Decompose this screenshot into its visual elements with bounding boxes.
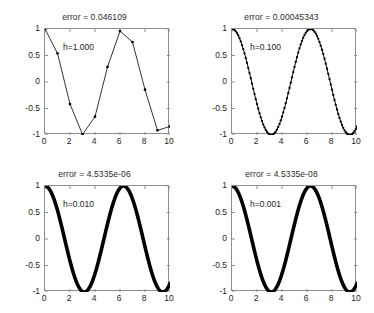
- step-size-annotation: h=0.010: [63, 199, 94, 209]
- y-tick-label: 0.5: [199, 50, 227, 59]
- y-tick-label: -1: [12, 287, 40, 296]
- y-tick-label: 0.5: [199, 207, 227, 216]
- x-tick-label: 2: [254, 137, 259, 146]
- x-tick-label: 4: [279, 137, 284, 146]
- x-tick-label: 8: [329, 137, 334, 146]
- x-tick-label: 0: [229, 294, 234, 303]
- y-tick-label: -0.5: [199, 103, 227, 112]
- y-tick-label: 1: [199, 181, 227, 190]
- y-tick-label: 0: [12, 77, 40, 86]
- y-tick-label: 1: [12, 181, 40, 190]
- x-tick-label: 0: [42, 137, 47, 146]
- x-tick-label: 0: [42, 294, 47, 303]
- y-tick-label: 0.5: [12, 207, 40, 216]
- subplot-top-right: error = 0.00045343 h=0.100 10.50-0.5-102…: [187, 0, 374, 157]
- figure-canvas: error = 0.046109 h=1.000 10.50-0.5-10246…: [0, 0, 374, 313]
- y-tick-label: -1: [199, 287, 227, 296]
- x-tick-label: 8: [142, 294, 147, 303]
- x-tick-label: 0: [229, 137, 234, 146]
- x-tick-label: 10: [164, 137, 173, 146]
- y-tick-label: 1: [199, 24, 227, 33]
- step-size-annotation: h=0.001: [250, 199, 281, 209]
- x-tick-label: 6: [304, 294, 309, 303]
- subplot-title: error = 4.5335e-06: [0, 169, 189, 179]
- x-tick-label: 4: [279, 294, 284, 303]
- x-tick-label: 4: [92, 137, 97, 146]
- x-tick-label: 2: [254, 294, 259, 303]
- y-tick-label: -1: [12, 130, 40, 139]
- x-tick-label: 4: [92, 294, 97, 303]
- step-size-annotation: h=0.100: [250, 42, 281, 52]
- y-tick-label: 0.5: [12, 50, 40, 59]
- y-tick-label: 0: [199, 77, 227, 86]
- x-tick-label: 10: [164, 294, 173, 303]
- y-tick-label: 0: [199, 234, 227, 243]
- x-tick-label: 6: [117, 294, 122, 303]
- x-tick-label: 6: [304, 137, 309, 146]
- subplot-bottom-right: error = 4.5335e-08 h=0.001 10.50-0.5-102…: [187, 157, 374, 313]
- subplot-title: error = 0.00045343: [187, 12, 374, 22]
- x-tick-label: 10: [351, 137, 360, 146]
- subplot-top-left: error = 0.046109 h=1.000 10.50-0.5-10246…: [0, 0, 187, 157]
- y-tick-label: -0.5: [12, 103, 40, 112]
- x-tick-label: 8: [142, 137, 147, 146]
- step-size-annotation: h=1.000: [63, 42, 94, 52]
- y-tick-label: 0: [12, 234, 40, 243]
- y-tick-label: 1: [12, 24, 40, 33]
- x-tick-label: 8: [329, 294, 334, 303]
- x-tick-label: 2: [67, 137, 72, 146]
- x-tick-label: 10: [351, 294, 360, 303]
- subplot-title: error = 0.046109: [0, 12, 189, 22]
- x-tick-label: 6: [117, 137, 122, 146]
- y-tick-label: -1: [199, 130, 227, 139]
- y-tick-label: -0.5: [12, 260, 40, 269]
- subplot-title: error = 4.5335e-08: [187, 169, 374, 179]
- subplot-bottom-left: error = 4.5335e-06 h=0.010 10.50-0.5-102…: [0, 157, 187, 313]
- x-tick-label: 2: [67, 294, 72, 303]
- y-tick-label: -0.5: [199, 260, 227, 269]
